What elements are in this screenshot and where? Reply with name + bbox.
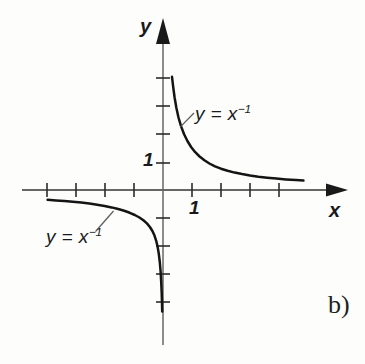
x-axis-arrowhead (326, 184, 348, 197)
panel-tag-label: b) (328, 292, 350, 318)
curve-label-upper: y = x−1 (195, 103, 251, 123)
curve-label-upper-text: y = x (195, 103, 238, 124)
x-axis-tick-label-one: 1 (189, 198, 200, 217)
leader-line-upper-label (180, 113, 194, 127)
curve-label-lower-exponent: −1 (89, 225, 102, 238)
x-axis-label: x (329, 200, 340, 220)
y-axis-arrowhead (156, 18, 170, 44)
y-axis-label: y (140, 16, 151, 36)
curve-branch-quadrant-three (48, 200, 163, 312)
curve-branch-quadrant-one (172, 77, 303, 181)
x-axis-group (22, 183, 348, 197)
curve-label-upper-exponent: −1 (238, 102, 251, 115)
curve-label-lower-text: y = x (46, 226, 89, 247)
plot-canvas (0, 0, 365, 364)
y-axis-tick-label-one: 1 (143, 150, 154, 169)
curve-label-lower: y = x−1 (46, 226, 102, 246)
figure-hyperbola-y-equals-x-inverse: y x 1 1 y = x−1 y = x−1 b) (0, 0, 365, 364)
